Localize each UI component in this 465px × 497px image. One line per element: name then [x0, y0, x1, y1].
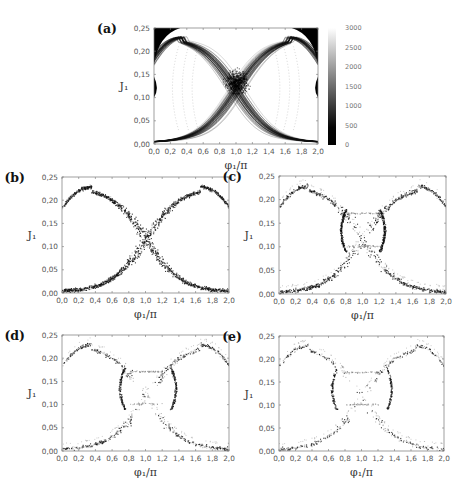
y-tick-label: 0,20	[42, 354, 59, 363]
colorbar-tick-label: 2500	[345, 44, 362, 52]
y-tick-label: 0,05	[259, 266, 275, 275]
x-tick-label: 0,8	[123, 454, 135, 463]
x-tick-label: 2,0	[312, 147, 324, 156]
panel-label-b: (b)	[4, 170, 25, 185]
x-tick-label: 1,0	[356, 454, 368, 463]
x-tick-label: 1,0	[230, 147, 242, 156]
y-tick-label: 0,00	[259, 290, 276, 299]
x-tick-label: 0,8	[123, 296, 135, 305]
x-tick-label: 0,6	[197, 147, 209, 156]
panel-d: 0,00,20,40,60,81,01,21,41,61,82,00,000,0…	[4, 328, 235, 479]
x-tick-label: 1,2	[372, 454, 384, 463]
y-tick-label: 0,25	[259, 172, 275, 181]
x-axis-label: φ₁/π	[351, 309, 374, 322]
x-tick-label: 1,6	[190, 296, 202, 305]
x-tick-label: 0,6	[323, 297, 335, 306]
x-tick-label: 0,4	[306, 454, 318, 463]
colorbar-tick-label: 1000	[345, 102, 362, 110]
x-tick-label: 0,8	[339, 454, 351, 463]
plot-area-c	[279, 179, 447, 294]
y-tick-label: 0,05	[134, 116, 150, 125]
x-tick-label: 1,8	[296, 147, 308, 156]
x-tick-label: 0,8	[214, 147, 226, 156]
y-tick-label: 0,05	[259, 424, 275, 433]
x-tick-label: 1,2	[156, 454, 168, 463]
figure-canvas: 0,00,20,40,60,81,01,21,41,61,82,00,000,0…	[0, 0, 465, 497]
y-tick-label: 0,15	[134, 70, 150, 79]
x-tick-label: 1,4	[173, 454, 185, 463]
y-tick-label: 0,05	[42, 265, 58, 274]
x-tick-label: 1,4	[390, 297, 402, 306]
x-tick-label: 0,2	[165, 147, 177, 156]
panel-a: 0,00,20,40,60,81,01,21,41,61,82,00,000,0…	[97, 21, 324, 172]
x-tick-label: 1,0	[140, 454, 152, 463]
y-tick-label: 0,25	[259, 332, 275, 341]
x-tick-label: 0,6	[106, 296, 118, 305]
x-tick-label: 1,2	[373, 297, 385, 306]
y-axis-label: J₁	[27, 387, 37, 400]
colorbar: 050010001500200025003000	[328, 24, 362, 149]
x-tick-label: 0,2	[290, 454, 302, 463]
x-tick-label: 0,4	[307, 297, 319, 306]
x-tick-label: 1,4	[389, 454, 401, 463]
x-tick-label: 0,4	[90, 296, 102, 305]
axes-frame-e	[279, 336, 444, 451]
x-tick-label: 1,8	[422, 454, 434, 463]
x-tick-label: 1,6	[279, 147, 291, 156]
y-tick-label: 0,15	[259, 378, 275, 387]
x-axis-label: φ₁/π	[134, 308, 157, 321]
x-tick-label: 1,0	[357, 297, 369, 306]
x-tick-label: 1,4	[263, 147, 275, 156]
x-tick-label: 0,2	[73, 454, 85, 463]
x-tick-label: 0,6	[323, 454, 335, 463]
y-tick-label: 0,25	[42, 331, 58, 340]
panel-b: 0,00,20,40,60,81,01,21,41,61,82,00,000,0…	[4, 170, 235, 321]
colorbar-tick-label: 3000	[345, 24, 362, 32]
panel-c: 0,00,20,40,60,81,01,21,41,61,82,00,000,0…	[223, 169, 453, 322]
x-tick-label: 1,2	[247, 147, 259, 156]
colorbar-tick-label: 0	[345, 141, 349, 149]
x-tick-label: 1,4	[173, 296, 185, 305]
plot-area-e	[279, 339, 445, 451]
x-tick-label: 0,2	[73, 296, 85, 305]
x-tick-label: 2,0	[440, 297, 452, 306]
y-tick-label: 0,10	[42, 242, 59, 251]
panel-e: 0,00,20,40,60,81,01,21,41,61,82,00,000,0…	[222, 329, 450, 479]
panel-label-d: (d)	[4, 328, 25, 343]
y-tick-label: 0,15	[42, 219, 58, 228]
y-tick-label: 0,05	[42, 423, 58, 432]
y-tick-label: 0,20	[42, 196, 59, 205]
colorbar-tick-label: 500	[345, 122, 357, 130]
axes-frame-c	[279, 176, 446, 294]
x-tick-label: 1,6	[407, 297, 419, 306]
y-axis-label: J₁	[27, 229, 37, 242]
y-tick-label: 0,20	[134, 47, 151, 56]
y-tick-label: 0,25	[42, 173, 58, 182]
panel-label-a: (a)	[97, 21, 117, 36]
x-tick-label: 1,6	[190, 454, 202, 463]
plot-area-b	[62, 184, 230, 293]
y-tick-label: 0,25	[134, 24, 150, 33]
panel-label-e: (e)	[222, 329, 242, 344]
y-tick-label: 0,00	[42, 447, 59, 456]
y-tick-label: 0,00	[42, 289, 59, 298]
y-tick-label: 0,10	[259, 242, 276, 251]
y-tick-label: 0,20	[259, 195, 276, 204]
x-tick-label: 1,8	[206, 296, 218, 305]
colorbar-gradient	[328, 28, 336, 145]
colorbar-tick-label: 2000	[345, 63, 362, 71]
y-axis-label: J₁	[244, 229, 254, 242]
y-axis-label: J₁	[244, 388, 254, 401]
x-tick-label: 0,6	[106, 454, 118, 463]
x-tick-label: 2,0	[438, 454, 450, 463]
y-tick-label: 0,15	[42, 377, 58, 386]
x-tick-label: 1,0	[140, 296, 152, 305]
x-tick-label: 0,8	[340, 297, 352, 306]
panel-label-c: (c)	[223, 169, 242, 184]
y-tick-label: 0,15	[259, 219, 275, 228]
x-tick-label: 1,8	[423, 297, 435, 306]
y-tick-label: 0,00	[134, 140, 151, 149]
x-axis-label: φ₁/π	[134, 466, 157, 479]
y-tick-label: 0,00	[259, 447, 276, 456]
colorbar-tick-label: 1500	[345, 83, 362, 91]
